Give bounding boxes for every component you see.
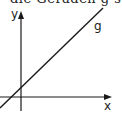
y-axis (18, 11, 24, 111)
line-g (0, 8, 103, 108)
line-g-label: g (94, 19, 102, 33)
y-axis-arrow-icon (18, 11, 24, 19)
x-axis-label: x (104, 99, 111, 113)
y-axis-label: y (11, 7, 18, 21)
coordinate-diagram: y g x (0, 0, 122, 127)
x-axis (0, 94, 112, 100)
